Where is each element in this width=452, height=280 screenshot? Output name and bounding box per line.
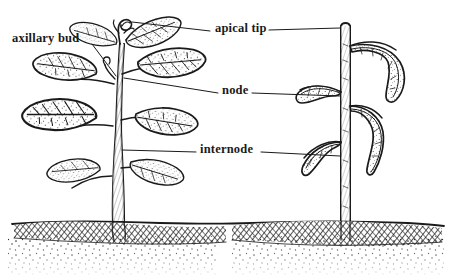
- label-axillary-bud: axillary bud: [12, 32, 79, 45]
- label-internode: internode: [200, 143, 253, 156]
- label-apical-tip: apical tip: [215, 22, 267, 35]
- label-node: node: [222, 84, 249, 97]
